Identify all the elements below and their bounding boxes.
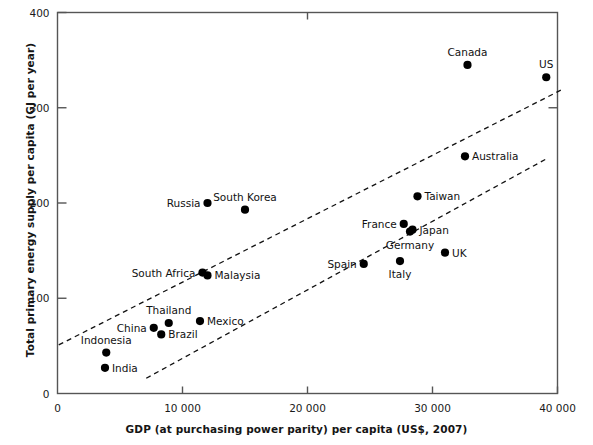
x-tick-label: 30 000 <box>414 402 451 414</box>
data-point-marker <box>196 317 204 325</box>
data-point-marker <box>150 324 158 332</box>
axes-group <box>58 13 558 394</box>
data-point-label: South Africa <box>132 267 196 279</box>
data-point-marker <box>241 206 249 214</box>
data-point-label: Spain <box>327 258 356 270</box>
data-point-marker <box>406 227 414 235</box>
data-point-marker <box>360 260 368 268</box>
data-point-label: South Korea <box>213 191 277 203</box>
data-point-label: Germany <box>386 239 434 251</box>
data-point-marker <box>203 199 211 207</box>
x-tick-label: 40 000 <box>539 402 576 414</box>
data-point-marker <box>157 330 165 338</box>
data-point-label: UK <box>452 247 467 259</box>
plot-frame <box>58 13 558 394</box>
data-point-marker <box>441 248 449 256</box>
data-point-marker <box>396 257 404 265</box>
data-point-label: Taiwan <box>425 190 461 202</box>
x-axis-title: GDP (at purchasing power parity) per cap… <box>0 423 593 435</box>
data-point-label: France <box>362 218 397 230</box>
upper-dashed-trend <box>59 89 564 345</box>
data-point-marker <box>400 220 408 228</box>
data-point-marker <box>461 152 469 160</box>
data-point-label: Brazil <box>168 328 197 340</box>
data-point-label: Malaysia <box>215 269 261 281</box>
data-point-label: Australia <box>472 150 518 162</box>
scatter-chart-figure: 010 00020 00030 00040 0000100200300400 C… <box>0 0 593 445</box>
plot-canvas <box>0 0 593 445</box>
data-points-group <box>101 61 550 372</box>
y-axis-title: Total primary energy supply per capita (… <box>24 0 36 410</box>
data-point-label: Russia <box>167 197 201 209</box>
data-point-label: US <box>539 58 553 70</box>
trend-lines-group <box>59 89 564 379</box>
data-point-label: Mexico <box>207 315 244 327</box>
x-tick-label: 0 <box>54 402 61 414</box>
data-point-label: Thailand <box>146 304 191 316</box>
y-axis-title-wrapper: Total primary energy supply per capita (… <box>24 0 40 410</box>
x-tick-label: 10 000 <box>164 402 201 414</box>
data-point-marker <box>165 319 173 327</box>
data-point-marker <box>101 364 109 372</box>
data-point-label: China <box>117 322 147 334</box>
x-tick-label: 20 000 <box>289 402 326 414</box>
data-point-label: Canada <box>448 46 488 58</box>
data-point-label: Italy <box>389 268 412 280</box>
data-point-marker <box>542 73 550 81</box>
data-point-label: Indonesia <box>81 334 132 346</box>
data-point-marker <box>413 192 421 200</box>
data-point-label: Japan <box>420 224 449 236</box>
data-point-marker <box>463 61 471 69</box>
data-point-marker <box>102 348 110 356</box>
data-point-marker <box>203 271 211 279</box>
data-point-label: India <box>112 362 138 374</box>
